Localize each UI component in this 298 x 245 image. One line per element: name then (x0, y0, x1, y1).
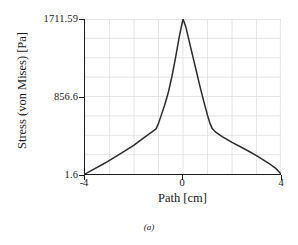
plot-area (84, 19, 281, 175)
y-axis-title: Stress (von Mises) [Pa] (16, 11, 29, 171)
figure-von-mises-stress-plot: 1711.59 856.6 1.6 Stress (von Mises) [Pa… (0, 0, 298, 245)
x-axis-tick-label-max: 4 (269, 177, 293, 188)
x-axis-tick-label-min: -4 (72, 177, 96, 188)
figure-caption: (a) (0, 222, 298, 232)
stress-curve (85, 19, 281, 174)
y-axis-tick-label-mid: 856.6 (54, 92, 78, 103)
y-axis-tick-label-max: 1711.59 (44, 14, 78, 25)
x-axis-tick-label-mid: 0 (170, 177, 194, 188)
x-axis-title: Path [cm] (84, 191, 281, 205)
y-axis-tick-label-group: 1711.59 856.6 1.6 (0, 0, 82, 245)
stress-curve-line (85, 19, 281, 174)
